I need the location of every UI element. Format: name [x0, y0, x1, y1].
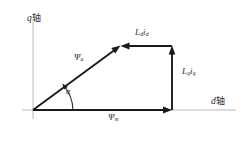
q-axis-label-suffix: 轴 [32, 13, 41, 23]
resultant-flux-label-subscript: a [80, 56, 83, 62]
q-axis-drop-label-subscript2: q [193, 70, 196, 76]
q-axis-drop-label: Lqiq [182, 67, 196, 77]
alpha-angle-label: α [66, 88, 70, 96]
d-axis-drop-vector-arrowhead [121, 43, 130, 50]
d-axis-label: d轴 [211, 97, 225, 107]
resultant-flux-label: Ψa [74, 53, 83, 63]
d-axis-label-suffix: 轴 [216, 96, 225, 106]
magnet-flux-label: Ψm [108, 113, 119, 123]
q-axis-label: q轴 [27, 14, 41, 24]
magnet-flux-label-subscript: m [114, 116, 118, 122]
d-axis-drop-label: Ldid [135, 28, 149, 38]
phasor-diagram-figure: q轴 d轴 Ψa Ldid Lqiq Ψm α [0, 0, 243, 143]
magnet-flux-vector-arrowhead [163, 107, 172, 114]
d-axis-drop-label-subscript2: d [146, 31, 149, 37]
